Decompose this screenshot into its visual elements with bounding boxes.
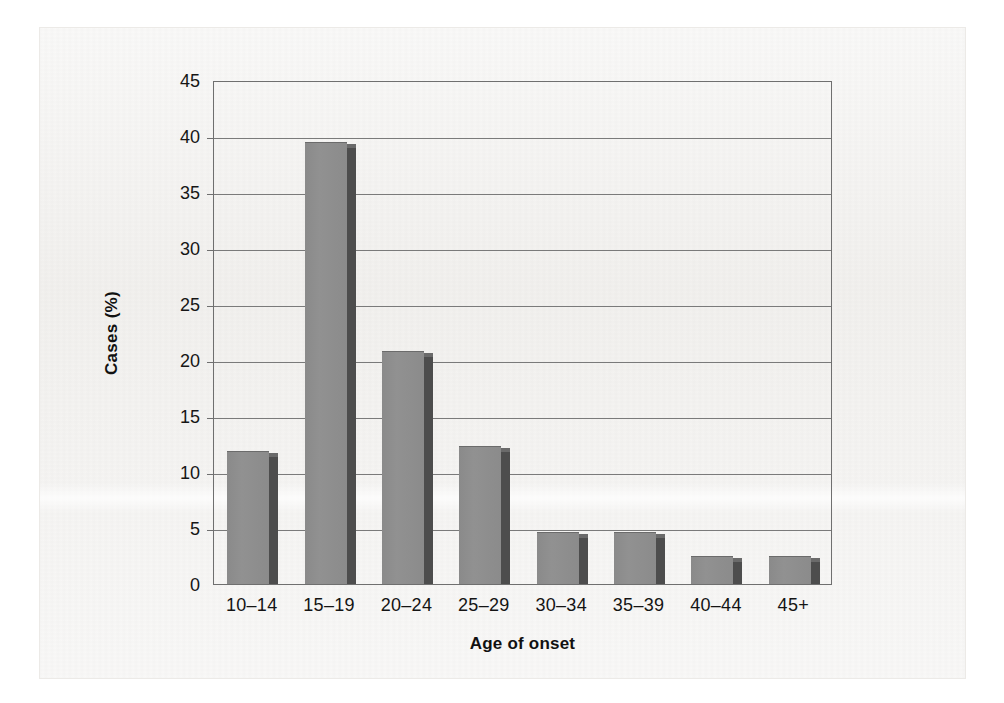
bar-3d-top — [424, 353, 433, 357]
y-axis-tick-label: 10 — [152, 463, 200, 484]
y-axis-tick-label: 15 — [152, 407, 200, 428]
bar-chart: Cases (%) 051015202530354045 10–1415–192… — [0, 0, 1004, 703]
bar[interactable] — [459, 446, 501, 584]
y-axis-tick-mark — [207, 418, 214, 419]
y-axis-tick-mark — [207, 138, 214, 139]
bar-3d-top — [733, 558, 742, 562]
y-axis-tick-label: 0 — [152, 575, 200, 596]
bar-3d-top — [269, 453, 278, 457]
bar-3d-side — [347, 146, 356, 584]
y-axis-tick-label: 5 — [152, 519, 200, 540]
x-axis-tick-label: 20–24 — [368, 595, 445, 616]
plot-area — [213, 81, 832, 585]
bar[interactable] — [227, 451, 269, 584]
bar-3d-top — [811, 558, 820, 562]
y-axis-tick-label: 20 — [152, 351, 200, 372]
bar-3d-side — [424, 355, 433, 584]
x-axis-tick-label: 30–34 — [523, 595, 600, 616]
bar[interactable] — [305, 142, 347, 584]
bar[interactable] — [382, 351, 424, 584]
bar-3d-side — [656, 536, 665, 584]
bar-group — [756, 82, 833, 584]
x-axis-tick-label: 25–29 — [445, 595, 522, 616]
x-axis-tick-label: 10–14 — [213, 595, 290, 616]
y-axis-tick-label: 45 — [152, 71, 200, 92]
bar-3d-side — [733, 560, 742, 584]
x-axis-tick-label: 45+ — [755, 595, 832, 616]
bar[interactable] — [614, 532, 656, 584]
y-axis-tick-mark — [207, 362, 214, 363]
bar-3d-side — [579, 536, 588, 584]
x-axis-tick-label: 15–19 — [290, 595, 367, 616]
bar-3d-top — [656, 534, 665, 538]
x-axis-title: Age of onset — [213, 634, 832, 654]
y-axis-tick-mark — [207, 474, 214, 475]
bar-3d-top — [347, 144, 356, 148]
y-axis-tick-label: 30 — [152, 239, 200, 260]
y-axis-tick-mark — [207, 250, 214, 251]
bar-3d-top — [579, 534, 588, 538]
page-root: Cases (%) 051015202530354045 10–1415–192… — [0, 0, 1004, 703]
bar-3d-side — [811, 560, 820, 584]
bar-3d-top — [501, 448, 510, 452]
bar-group — [524, 82, 601, 584]
bar-3d-side — [269, 455, 278, 584]
bar-group — [601, 82, 678, 584]
bar[interactable] — [691, 556, 733, 584]
bar[interactable] — [769, 556, 811, 584]
y-axis-tick-mark — [207, 530, 214, 531]
y-axis-tick-mark — [207, 194, 214, 195]
bar-3d-side — [501, 450, 510, 584]
x-axis-tick-label: 40–44 — [677, 595, 754, 616]
y-axis-tick-label: 25 — [152, 295, 200, 316]
bar-group — [446, 82, 523, 584]
bar[interactable] — [537, 532, 579, 584]
bar-group — [291, 82, 368, 584]
y-axis-tick-label: 35 — [152, 183, 200, 204]
x-axis-tick-label: 35–39 — [600, 595, 677, 616]
bar-group — [369, 82, 446, 584]
bar-group — [214, 82, 291, 584]
bar-group — [678, 82, 755, 584]
y-axis-tick-label: 40 — [152, 127, 200, 148]
y-axis-tick-mark — [207, 306, 214, 307]
